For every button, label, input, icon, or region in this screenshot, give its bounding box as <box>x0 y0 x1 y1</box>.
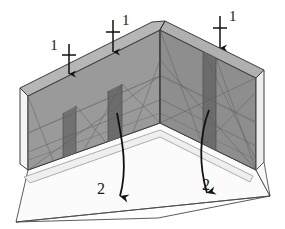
figure-root: 1 1 1 2 2 <box>0 0 285 229</box>
rotation-arrow-left-label: 2 <box>97 180 105 197</box>
left-wall-end-face <box>20 88 28 170</box>
rotation-arrow-right-label: 2 <box>202 176 210 193</box>
load-arrow-right-label: 1 <box>229 8 237 24</box>
load-arrow-middle-label: 1 <box>122 12 130 28</box>
corner-wall-diagram: 1 1 1 2 2 <box>0 0 285 229</box>
load-arrow-right: 1 <box>213 8 237 48</box>
load-arrow-left-label: 1 <box>50 37 58 53</box>
